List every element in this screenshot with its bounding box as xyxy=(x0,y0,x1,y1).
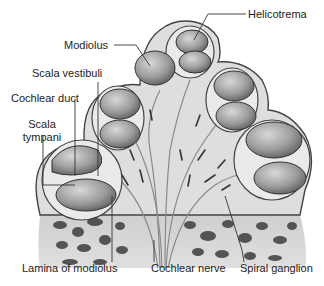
label-modiolus: Modiolus xyxy=(64,39,108,52)
cochlea-diagram: Helicotrema Modiolus Scala vestibuli Coc… xyxy=(0,0,324,286)
basal-turn-right xyxy=(234,120,310,200)
label-scala-tympani-line2: tympani xyxy=(23,131,62,143)
middle-turn-left xyxy=(92,86,144,150)
middle-turn-right xyxy=(206,68,258,132)
label-spiral-ganglion: Spiral ganglion xyxy=(240,262,313,275)
label-lamina-of-modiolus: Lamina of modiolus xyxy=(22,262,117,275)
bone-base xyxy=(0,215,324,286)
label-helicotrema: Helicotrema xyxy=(248,8,307,21)
label-cochlear-nerve: Cochlear nerve xyxy=(151,262,226,275)
label-scala-tympani: Scala tympani xyxy=(20,118,64,144)
label-scala-vestibuli: Scala vestibuli xyxy=(32,67,102,80)
label-scala-tympani-line1: Scala xyxy=(28,118,56,130)
label-cochlear-duct: Cochlear duct xyxy=(11,92,79,105)
basal-turn-left xyxy=(42,140,122,220)
